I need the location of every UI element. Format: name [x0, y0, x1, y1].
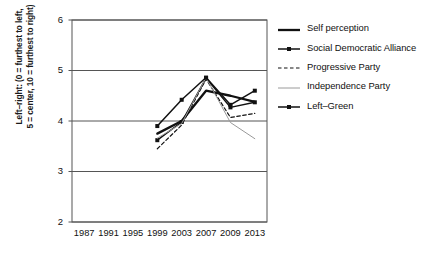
series-marker-4	[204, 76, 208, 80]
series-line-0	[157, 91, 255, 134]
legend-item-1[interactable]: Social Democratic Alliance	[278, 37, 442, 56]
series-line-3	[157, 78, 255, 139]
legend-key-icon	[278, 99, 300, 111]
legend-label: Independence Party	[307, 80, 390, 91]
legend-label: Progressive Party	[307, 61, 380, 72]
legend-item-0[interactable]: Self perception	[278, 18, 442, 37]
legend-key-icon	[278, 22, 300, 34]
series-line-1	[157, 78, 255, 140]
series-line-2	[157, 79, 255, 149]
legend-label: Self perception	[307, 22, 369, 33]
series-marker-4	[180, 98, 184, 102]
legend-key-icon	[278, 41, 300, 53]
series-marker-4	[155, 124, 159, 128]
legend-key-icon	[278, 60, 300, 72]
series-marker-4	[253, 89, 257, 93]
chart-container: Left–right: (0 = furthest to left, 5 = c…	[0, 0, 442, 259]
series-marker-1	[155, 138, 159, 142]
legend-item-4[interactable]: Left–Green	[278, 96, 442, 115]
legend-label: Social Democratic Alliance	[307, 42, 416, 53]
legend-item-2[interactable]: Progressive Party	[278, 57, 442, 76]
series-line-4	[157, 78, 255, 126]
series-marker-4	[228, 103, 232, 107]
legend-key-icon	[278, 80, 300, 92]
legend-item-3[interactable]: Independence Party	[278, 76, 442, 95]
legend-label: Left–Green	[307, 100, 353, 111]
series-marker-1	[253, 100, 257, 104]
chart-legend: Self perceptionSocial Democratic Allianc…	[278, 18, 442, 115]
